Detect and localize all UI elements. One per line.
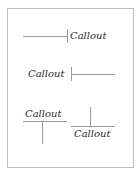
- callout-1-tick: [67, 29, 68, 43]
- callout-1-label: Callout: [70, 30, 107, 41]
- callout-3-underline: [23, 121, 67, 122]
- callout-4-label: Callout: [74, 128, 111, 139]
- callout-4-rise-line: [90, 107, 91, 126]
- callout-2-leader-line: [72, 74, 115, 75]
- callout-2-label: Callout: [28, 68, 65, 79]
- callout-1-leader-line: [23, 36, 67, 37]
- callout-3-label: Callout: [25, 108, 62, 119]
- callout-4-overline: [71, 126, 115, 127]
- callout-3-drop-line: [42, 122, 43, 144]
